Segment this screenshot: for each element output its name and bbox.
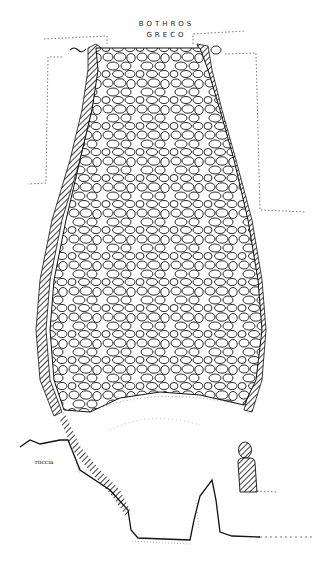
figure-ground-line (257, 491, 278, 492)
scale-figure-head (239, 442, 252, 458)
bothros-section-drawing: BOTHROS GRECO roccia (0, 0, 333, 565)
scale-figure-body (238, 458, 257, 492)
rock-label: roccia (35, 458, 54, 465)
ground-line-left (28, 57, 62, 184)
title-line-2: GRECO (0, 31, 333, 39)
title-line-1: BOTHROS (0, 20, 333, 28)
section-svg (0, 0, 333, 565)
rim-stone (211, 46, 221, 54)
soil-line-2 (110, 419, 200, 430)
stone-fill (50, 48, 262, 412)
rim-mark (70, 48, 86, 52)
bedrock-profile (20, 440, 260, 540)
